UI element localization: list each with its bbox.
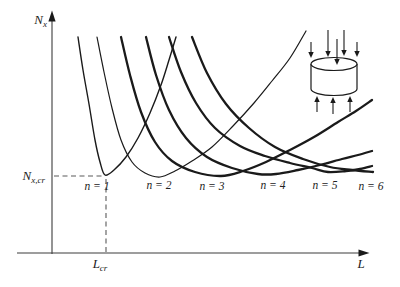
cylinder-compression-icon	[308, 30, 359, 114]
mode-label-n4: n = 4	[260, 179, 285, 191]
mode-label-n5: n = 5	[312, 179, 337, 191]
figure-canvas: n = 1n = 2n = 3n = 4n = 5n = 6 Nx L Nx,c…	[0, 0, 400, 287]
mode-label-n2: n = 2	[146, 179, 171, 191]
x-axis-label: L	[356, 256, 364, 271]
axes	[17, 11, 370, 257]
y-axis-label: Nx	[33, 12, 47, 29]
buckling-curve-n6	[192, 37, 373, 172]
buckling-curve-n2	[97, 31, 306, 177]
critical-length-label: Lcr	[92, 256, 108, 273]
buckling-curves-figure: n = 1n = 2n = 3n = 4n = 5n = 6 Nx L Nx,c…	[0, 0, 400, 287]
mode-label-n3: n = 3	[199, 180, 224, 192]
mode-label-n1: n = 1	[84, 180, 109, 192]
mode-labels-layer: n = 1n = 2n = 3n = 4n = 5n = 6	[84, 179, 383, 192]
cylinder-top-rim	[311, 58, 357, 71]
y-axis-arrow-icon	[48, 11, 55, 22]
critical-load-label: Nx,cr	[22, 168, 46, 185]
bottom-compression-arrows	[314, 96, 352, 114]
mode-label-n6: n = 6	[358, 180, 383, 192]
